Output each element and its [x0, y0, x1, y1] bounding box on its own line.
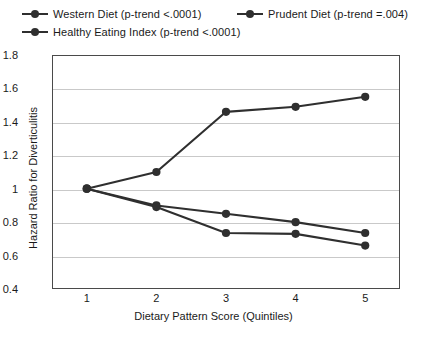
gridline — [53, 190, 399, 191]
gridline — [53, 223, 399, 224]
y-axis-title: Hazard Ratio for Diverticulitis — [27, 78, 39, 278]
plot-frame — [52, 55, 400, 289]
gridline — [53, 89, 399, 90]
gridline — [53, 257, 399, 258]
x-axis-title: Dietary Pattern Score (Quintiles) — [0, 310, 427, 322]
y-tick-label: 1.2 — [3, 149, 18, 161]
x-tick-label: 1 — [84, 292, 90, 304]
gridline — [53, 156, 399, 157]
x-tick-label: 2 — [153, 292, 159, 304]
chart-root: Western Diet (p-trend <.0001) Prudent Di… — [0, 0, 427, 337]
y-tick-label: 1 — [12, 183, 18, 195]
gridline — [53, 123, 399, 124]
y-tick-label: 0.8 — [3, 216, 18, 228]
x-tick-label: 3 — [223, 292, 229, 304]
y-tick-label: 1.8 — [3, 49, 18, 61]
x-tick-label: 5 — [362, 292, 368, 304]
y-tick-label: 1.4 — [3, 116, 18, 128]
plot-area: 0.40.60.811.21.41.61.8 12345 Hazard Rati… — [0, 0, 427, 337]
y-tick-label: 0.4 — [3, 283, 18, 295]
y-tick-label: 0.6 — [3, 250, 18, 262]
x-tick-label: 4 — [293, 292, 299, 304]
y-tick-label: 1.6 — [3, 82, 18, 94]
